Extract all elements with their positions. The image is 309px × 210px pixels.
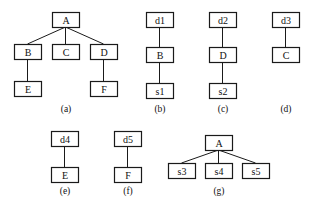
node-label: s5 [252,166,261,177]
node-label: s3 [178,166,187,177]
node-C: C [273,48,300,63]
diagram-a: ABCDEF(a) [15,13,118,116]
node-label: D [100,47,107,58]
node-s4: s4 [206,164,233,179]
node-label: D [219,50,226,61]
node-label: F [101,84,107,95]
node-d1: d1 [147,13,174,28]
node-F: F [115,168,142,183]
edge-A-s3 [182,150,219,163]
edge-A-B [28,27,66,44]
node-label: C [63,47,70,58]
node-label: E [62,170,68,181]
diagram-g: As3s4s5(g) [169,136,270,198]
caption: (f) [123,186,133,197]
diagram-c: d2Ds2(c) [210,13,237,116]
node-s5: s5 [243,164,270,179]
node-label: d5 [123,134,133,145]
node-E: E [15,82,42,97]
node-label: d4 [60,134,70,145]
edge-A-D [66,27,104,44]
diagram-e: d4E(e) [52,132,79,198]
node-D: D [210,48,237,63]
node-E: E [52,168,79,183]
node-D: D [91,45,118,60]
tree-diagrams-figure: ABCDEF(a)d1Bs1(b)d2Ds2(c)d3C(d)d4E(e)d5F… [0,0,309,210]
diagram-b: d1Bs1(b) [147,13,174,116]
node-d2: d2 [210,13,237,28]
node-label: s2 [219,86,228,97]
node-label: C [283,50,290,61]
node-label: d1 [155,15,165,26]
node-B: B [147,48,174,63]
caption: (e) [60,186,71,197]
edge-A-s5 [219,150,256,163]
node-d4: d4 [52,132,79,147]
node-s3: s3 [169,164,196,179]
diagram-f: d5F(f) [115,132,142,198]
caption: (g) [213,186,224,197]
node-label: A [62,15,70,26]
node-label: s1 [156,86,165,97]
node-s1: s1 [147,84,174,99]
node-A: A [53,13,80,28]
node-label: s4 [215,166,224,177]
node-s2: s2 [210,84,237,99]
node-label: d2 [218,15,228,26]
caption: (d) [280,104,291,115]
node-label: B [25,47,32,58]
node-B: B [15,45,42,60]
node-A: A [206,136,233,151]
node-d5: d5 [115,132,142,147]
caption: (a) [61,104,72,115]
caption: (b) [154,104,165,115]
node-label: d3 [281,15,291,26]
node-label: F [125,170,131,181]
node-d3: d3 [273,13,300,28]
node-label: A [215,138,223,149]
caption: (c) [218,104,229,115]
diagram-d: d3C(d) [273,13,300,116]
node-C: C [53,45,80,60]
node-label: B [157,50,164,61]
node-label: E [25,84,31,95]
node-F: F [91,82,118,97]
